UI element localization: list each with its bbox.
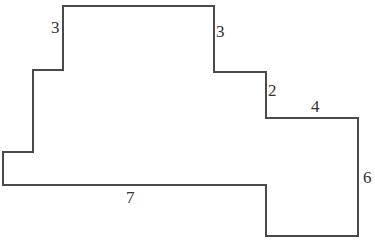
label-step-height: 2 <box>268 81 277 100</box>
label-bottom-width: 7 <box>126 188 135 207</box>
shape-svg: 3 3 2 4 6 7 <box>0 0 375 242</box>
label-step-width: 4 <box>311 97 320 116</box>
diagram-canvas: 3 3 2 4 6 7 <box>0 0 375 242</box>
label-right-height: 6 <box>363 168 372 187</box>
label-top-left-height: 3 <box>51 18 60 37</box>
label-top-right-height: 3 <box>216 22 225 41</box>
polygon-outline <box>3 6 358 236</box>
